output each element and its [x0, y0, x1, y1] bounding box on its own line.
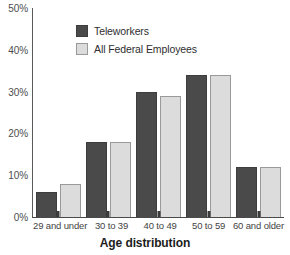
x-tick-label: 40 to 49: [136, 220, 185, 231]
bar-teleworkers: [186, 75, 207, 217]
bar-all-federal-employees: [210, 75, 231, 217]
bar-all-federal-employees: [60, 184, 81, 217]
bar-group: [33, 8, 83, 217]
axis-tick-mark: [157, 211, 160, 217]
x-tick-label: 29 and under: [33, 220, 87, 231]
bar-teleworkers: [136, 92, 157, 217]
bar-all-federal-employees: [110, 142, 131, 217]
x-tick-label: 30 to 39: [87, 220, 136, 231]
bar-group: [133, 8, 183, 217]
x-axis-title: Age distribution: [0, 236, 290, 250]
x-tick-label: 60 and older: [233, 220, 284, 231]
y-tick-label: 50%: [8, 3, 32, 14]
bar-group: [83, 8, 133, 217]
bar-teleworkers: [236, 167, 257, 217]
bar-all-federal-employees: [260, 167, 281, 217]
bar-chart: Teleworkers All Federal Employees 0% 10%…: [0, 0, 290, 255]
x-tick-label: 50 to 59: [184, 220, 233, 231]
bar-teleworkers: [86, 142, 107, 217]
y-tick-label: 30%: [8, 86, 32, 97]
y-tick-label: 40%: [8, 44, 32, 55]
x-axis-line: [32, 217, 284, 218]
axis-tick-mark: [107, 211, 110, 217]
y-tick-label: 0%: [14, 212, 32, 223]
x-axis-labels: 29 and under 30 to 39 40 to 49 50 to 59 …: [33, 220, 284, 231]
axis-tick-mark: [57, 211, 60, 217]
axis-tick-mark: [257, 211, 260, 217]
y-tick-label: 10%: [8, 170, 32, 181]
bar-group: [234, 8, 284, 217]
bar-group: [184, 8, 234, 217]
bar-teleworkers: [36, 192, 57, 217]
bar-groups: [33, 8, 284, 217]
axis-tick-mark: [207, 211, 210, 217]
y-tick-label: 20%: [8, 128, 32, 139]
bar-all-federal-employees: [160, 96, 181, 217]
